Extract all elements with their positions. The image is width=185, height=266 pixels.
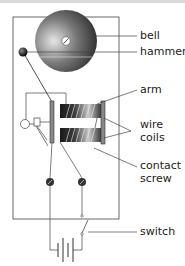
bell <box>35 10 97 72</box>
label-wire-coils-line1: wire <box>140 119 163 131</box>
terminal-screw-left <box>46 178 54 186</box>
label-contact-screw-line2: screw <box>140 173 172 185</box>
bell-screw-icon <box>62 37 70 45</box>
label-switch: switch <box>140 226 175 238</box>
label-wire-coils-line2: coils <box>140 132 165 144</box>
terminal-screw-right <box>78 178 86 186</box>
switch <box>76 215 88 250</box>
label-contact-screw-line1: contact <box>140 160 181 172</box>
label-bell: bell <box>140 30 160 42</box>
battery <box>58 238 76 262</box>
label-arm: arm <box>140 84 162 96</box>
label-hammer: hammer <box>140 46 185 58</box>
